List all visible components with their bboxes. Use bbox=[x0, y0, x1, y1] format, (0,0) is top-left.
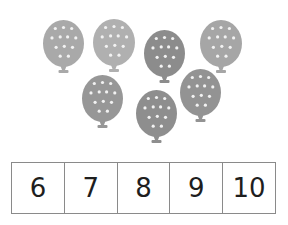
number-option-6[interactable]: 6 bbox=[12, 163, 65, 213]
balloon-icon bbox=[82, 75, 123, 130]
balloon-icon bbox=[136, 90, 177, 145]
number-option-7[interactable]: 7 bbox=[65, 163, 118, 213]
number-choice-strip: 6 7 8 9 10 bbox=[11, 162, 276, 214]
balloon-icon bbox=[43, 20, 84, 75]
balloon-icon bbox=[93, 19, 135, 74]
balloon-icon bbox=[200, 20, 242, 75]
number-option-8[interactable]: 8 bbox=[118, 163, 171, 213]
number-option-10[interactable]: 10 bbox=[223, 163, 275, 213]
balloon-icon bbox=[144, 30, 185, 85]
balloon-icon bbox=[180, 69, 221, 124]
number-option-9[interactable]: 9 bbox=[170, 163, 223, 213]
